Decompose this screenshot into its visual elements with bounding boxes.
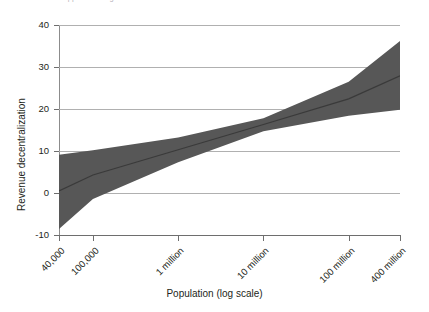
x-tick-mark [59, 236, 60, 241]
x-tick-label: 40,000 [0, 245, 67, 312]
x-tick-mark [263, 236, 264, 241]
y-tick-mark [54, 25, 59, 26]
y-tick-label: 30 [0, 61, 49, 72]
y-tick-label: -10 [0, 229, 49, 240]
x-tick-label: 400 million [259, 245, 408, 312]
chart-figure: Revenue decentralization 403020100-10 40… [0, 0, 429, 312]
y-tick-mark [54, 151, 59, 152]
y-tick-label: 0 [0, 187, 49, 198]
x-axis-line [59, 235, 401, 236]
confidence-band-and-line [59, 25, 400, 235]
x-tick-mark [93, 236, 94, 241]
y-tick-mark [54, 67, 59, 68]
x-axis-title: Population (log scale) [0, 288, 429, 299]
x-tick-mark [400, 236, 401, 241]
y-tick-label: 40 [0, 19, 49, 30]
plot-area [59, 25, 400, 235]
x-tick-mark [349, 236, 350, 241]
y-tick-label: 20 [0, 103, 49, 114]
y-tick-label: 10 [0, 145, 49, 156]
y-tick-mark [54, 109, 59, 110]
y-tick-mark [54, 193, 59, 194]
x-tick-mark [178, 236, 179, 241]
